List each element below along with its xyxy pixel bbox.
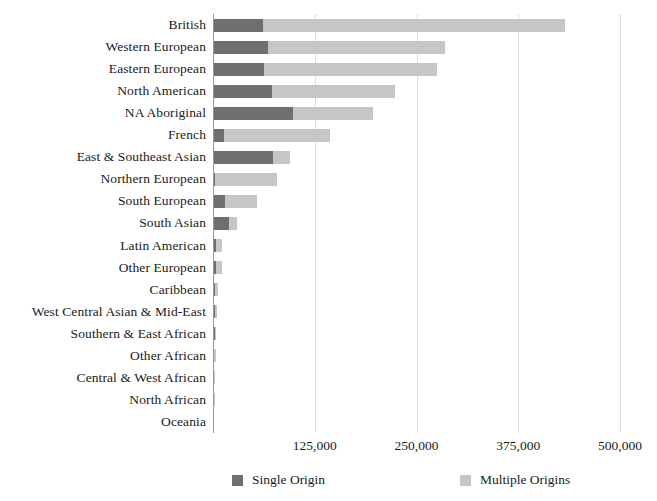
bar-segment-single-origin[interactable] (213, 217, 229, 230)
bar-row[interactable] (213, 63, 437, 76)
bar-segment-multiple-origins[interactable] (264, 63, 437, 76)
category-label: West Central Asian & Mid-East (0, 301, 206, 323)
bar-row[interactable] (213, 151, 290, 164)
bar-segment-multiple-origins[interactable] (293, 107, 373, 120)
bar-segment-multiple-origins[interactable] (216, 261, 222, 274)
category-label: Oceania (0, 411, 206, 433)
bar-segment-single-origin[interactable] (213, 85, 272, 98)
bar-segment-single-origin[interactable] (213, 195, 225, 208)
bar-segment-multiple-origins[interactable] (225, 195, 257, 208)
legend-label-single-origin: Single Origin (252, 470, 325, 490)
bar-segment-multiple-origins[interactable] (273, 151, 289, 164)
category-label: Western European (0, 36, 206, 58)
bar-segment-multiple-origins[interactable] (215, 327, 217, 340)
x-tick-label: 250,000 (395, 437, 439, 455)
category-label: Northern European (0, 168, 206, 190)
category-label: British (0, 14, 206, 36)
bar-segment-single-origin[interactable] (213, 19, 263, 32)
bar-segment-multiple-origins[interactable] (229, 217, 237, 230)
category-label: Latin American (0, 235, 206, 257)
bar-segment-single-origin[interactable] (213, 151, 273, 164)
bar-segment-multiple-origins[interactable] (215, 305, 217, 318)
bar-row[interactable] (213, 195, 257, 208)
x-tick-label: 375,000 (496, 437, 540, 455)
bar-row[interactable] (213, 217, 237, 230)
category-axis-labels: BritishWestern EuropeanEastern EuropeanN… (0, 14, 206, 433)
x-axis-tick-labels: 125,000250,000375,000500,000 (0, 437, 657, 457)
legend-item-single-origin[interactable]: Single Origin (232, 470, 325, 490)
legend-label-multiple-origins: Multiple Origins (480, 470, 570, 490)
bar-segment-multiple-origins[interactable] (214, 349, 216, 362)
bar-segment-multiple-origins[interactable] (215, 173, 277, 186)
x-tick-label: 500,000 (598, 437, 642, 455)
x-tick-label: 125,000 (293, 437, 337, 455)
plot-area (213, 14, 620, 433)
category-label: NA Aboriginal (0, 102, 206, 124)
bar-segment-multiple-origins[interactable] (224, 129, 330, 142)
bar-segment-single-origin[interactable] (213, 129, 224, 142)
category-label: Other African (0, 345, 206, 367)
bar-segment-single-origin[interactable] (213, 107, 293, 120)
bar-segment-multiple-origins[interactable] (263, 19, 565, 32)
bar-row[interactable] (213, 173, 277, 186)
bar-segment-multiple-origins[interactable] (268, 41, 445, 54)
legend-item-multiple-origins[interactable]: Multiple Origins (460, 470, 570, 490)
stacked-bar-chart: BritishWestern EuropeanEastern EuropeanN… (0, 0, 657, 501)
bar-row[interactable] (213, 107, 373, 120)
category-label: Eastern European (0, 58, 206, 80)
legend-swatch-multiple-origins (460, 475, 471, 486)
bar-segment-single-origin[interactable] (213, 41, 268, 54)
category-label: Other European (0, 257, 206, 279)
category-label: North American (0, 80, 206, 102)
bar-segment-multiple-origins[interactable] (216, 239, 222, 252)
bar-row[interactable] (213, 261, 222, 274)
bar-segment-multiple-origins[interactable] (272, 85, 395, 98)
chart-legend: Single Origin Multiple Origins (0, 470, 657, 492)
legend-swatch-single-origin (232, 475, 243, 486)
bar-row[interactable] (213, 129, 330, 142)
bar-segment-single-origin[interactable] (213, 63, 264, 76)
category-label: Caribbean (0, 279, 206, 301)
bar-row[interactable] (213, 19, 565, 32)
gridline-500000 (620, 14, 621, 433)
bar-row[interactable] (213, 41, 445, 54)
category-label: East & Southeast Asian (0, 146, 206, 168)
bar-row[interactable] (213, 239, 222, 252)
bar-segment-multiple-origins[interactable] (215, 283, 218, 296)
bar-segment-multiple-origins[interactable] (214, 371, 215, 384)
category-label: Central & West African (0, 367, 206, 389)
category-label: French (0, 124, 206, 146)
category-label: North African (0, 389, 206, 411)
category-label: South Asian (0, 212, 206, 234)
bar-row[interactable] (213, 85, 395, 98)
bar-rows (213, 14, 620, 433)
category-label: South European (0, 190, 206, 212)
y-axis-line (213, 14, 214, 433)
category-label: Southern & East African (0, 323, 206, 345)
